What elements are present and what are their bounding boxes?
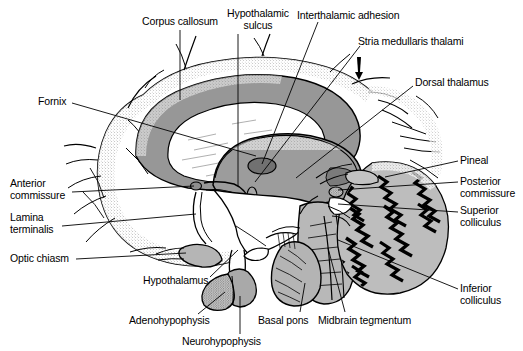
label-posterior-commissure: Posterior commissure [460,176,515,199]
label-midbrain-tegmentum: Midbrain tegmentum [318,315,411,327]
anatomical-figure: Corpus callosumHypothalamic sulcusIntert… [0,0,523,351]
brain-midsagittal-illustration [0,0,523,351]
label-optic-chiasm: Optic chiasm [10,253,69,265]
label-superior-colliculus: Superior colliculus [460,205,501,228]
label-stria-medullaris-thalami: Stria medullaris thalami [358,36,464,48]
label-anterior-commissure: Anterior commissure [10,178,65,201]
label-neurohypophysis: Neurohypophysis [182,336,261,348]
label-basal-pons: Basal pons [258,315,308,327]
label-dorsal-thalamus: Dorsal thalamus [415,77,489,89]
basal-pons [271,242,321,306]
label-adenohypophysis: Adenohypophysis [129,315,210,327]
label-pineal: Pineal [460,155,488,167]
leader-anterior-commissure [72,186,194,192]
arrow-marker [357,57,361,72]
label-hypothalamus: Hypothalamus [143,275,208,287]
label-hypothalamic-sulcus: Hypothalamic sulcus [0,8,516,31]
label-inferior-colliculus: Inferior colliculus [460,283,501,306]
posterior-commissure-shape [329,187,343,197]
label-fornix: Fornix [38,96,66,108]
label-interthalamic-adhesion: Interthalamic adhesion [297,10,399,22]
label-lamina-terminalis: Lamina terminalis [10,212,53,235]
